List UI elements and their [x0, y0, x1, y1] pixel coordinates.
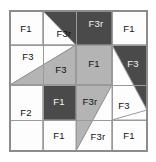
- quilt-patch: [10, 85, 43, 151]
- patch-label: F1: [123, 23, 135, 34]
- patch-label: F3r: [57, 28, 72, 39]
- patch-label: F3: [127, 58, 139, 69]
- patch-label: F1: [53, 96, 65, 107]
- quilt-block-canvas: F1F3rF3rF1F3F3F1F3F3F2F1F3rF1F3rF1: [0, 0, 156, 162]
- patch-label: F1: [53, 130, 65, 141]
- patch-label: F2: [20, 107, 32, 118]
- patch-label: F3: [22, 51, 34, 62]
- patch-label: F1: [88, 58, 100, 69]
- quilt-block-diagram: F1F3rF3rF1F3F3F1F3F3F2F1F3rF1F3rF1: [0, 0, 156, 162]
- patch-label: F1: [123, 130, 135, 141]
- patch-label: F3r: [83, 96, 98, 107]
- patch-label: F1: [20, 23, 32, 34]
- patch-label: F3: [118, 100, 130, 111]
- patch-label: F3r: [91, 131, 106, 142]
- patch-label: F3: [55, 64, 67, 75]
- patch-label: F3r: [89, 18, 104, 29]
